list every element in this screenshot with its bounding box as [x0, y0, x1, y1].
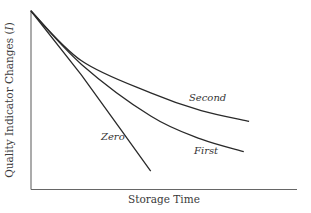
y-axis-label: Quality Indicator Changes (I) — [3, 15, 19, 185]
series-zero-line — [31, 11, 151, 171]
reaction-order-chart: Quality Indicator Changes (I) Storage Ti… — [0, 0, 311, 213]
y-axis-label-suffix: ) — [3, 22, 15, 26]
y-axis-label-text: Quality Indicator Changes ( — [3, 30, 15, 177]
series-label-first: First — [194, 145, 218, 156]
x-axis-label: Storage Time — [31, 193, 297, 205]
y-axis-label-symbol: I — [3, 26, 15, 30]
series-label-second: Second — [189, 92, 226, 103]
series-label-zero: Zero — [101, 131, 125, 142]
chart-canvas — [0, 0, 311, 213]
series-second-curve — [31, 11, 249, 121]
series-first-curve — [31, 11, 244, 152]
